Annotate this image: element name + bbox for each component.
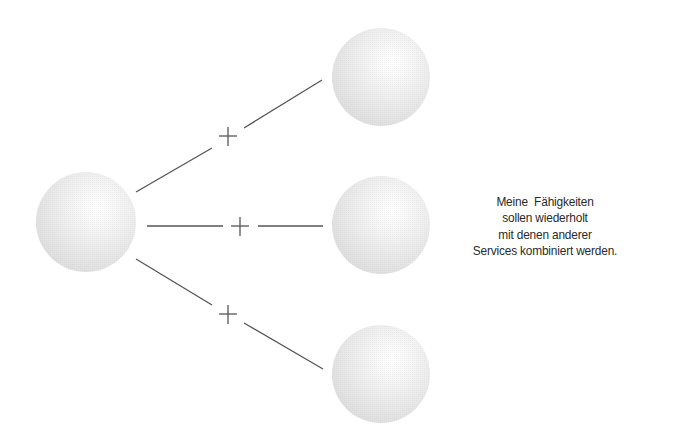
connector-line-segment (136, 148, 212, 192)
caption-text: Meine Fähigkeiten sollen wiederholt mit … (453, 194, 638, 259)
connector-line-segment (136, 259, 212, 305)
sphere-node-source (36, 172, 136, 272)
caption-line-4: Services kombiniert werden. (453, 243, 638, 259)
sphere-node-target-bottom (332, 325, 430, 423)
diagram-canvas: Meine Fähigkeiten sollen wiederholt mit … (0, 0, 693, 437)
connector-middle (147, 217, 323, 236)
connector-line-segment (244, 323, 323, 369)
plus-icon (219, 127, 237, 146)
caption-line-1: Meine Fähigkeiten (453, 194, 638, 210)
plus-icon (231, 217, 249, 236)
connector-top (136, 80, 322, 192)
caption-line-3: mit denen anderer (453, 227, 638, 243)
plus-icon (219, 305, 237, 324)
connector-bottom (136, 259, 323, 369)
sphere-node-target-middle (332, 176, 430, 274)
sphere-node-target-top (332, 28, 430, 126)
caption-line-2: sollen wiederholt (453, 210, 638, 226)
connectors-group (136, 80, 323, 369)
connector-line-segment (244, 80, 322, 128)
